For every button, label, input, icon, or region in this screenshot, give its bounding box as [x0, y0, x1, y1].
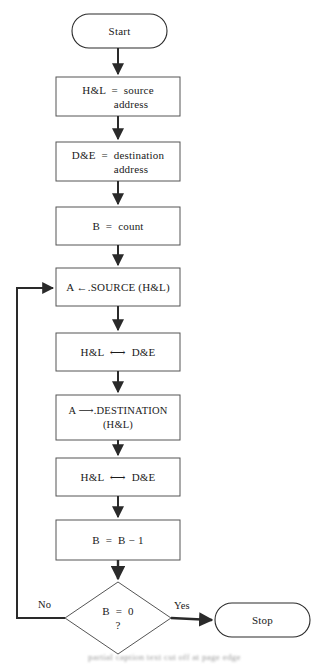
stop-terminal-shape	[215, 603, 310, 637]
set-source-box-shape	[56, 77, 180, 116]
test-zero-diamond-shape	[65, 582, 171, 654]
load-source-box-shape	[56, 268, 180, 306]
decrement-box-shape	[56, 520, 180, 560]
edge-label-yes: Yes	[174, 600, 190, 612]
set-count-box-shape	[56, 207, 180, 245]
edge-label-no: No	[38, 599, 51, 611]
store-destination-box-shape	[56, 395, 180, 440]
flowchart: Start H&L = source address D&E = destina…	[0, 0, 329, 666]
flowchart-canvas	[0, 0, 329, 666]
connector-yes-to-stop	[171, 618, 212, 620]
swap1-box-shape	[56, 333, 180, 371]
start-terminal-shape	[72, 14, 167, 48]
page-caption: partial caption text cut off at page edg…	[0, 652, 329, 666]
set-destination-box-shape	[56, 142, 180, 181]
swap2-box-shape	[56, 458, 180, 496]
